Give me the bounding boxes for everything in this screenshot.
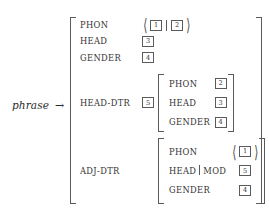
tag-box: 3 <box>142 36 154 47</box>
adj-dtr-row-phon: PHON ⟨ 1 ⟩ <box>164 142 259 161</box>
value: 3 <box>213 97 228 108</box>
angle-list: ⟨ 1 ⟩ <box>231 146 259 157</box>
outer-phon-value: ⟨ 1 2 ⟩ <box>142 20 191 31</box>
outer-row-phon: PHON ⟨ 1 2 ⟩ <box>80 17 256 33</box>
adj-dtr-matrix-body: PHON ⟨ 1 ⟩ HEADMOD <box>164 138 259 204</box>
attribute-label: ADJ-DTR <box>80 166 142 176</box>
angle-list: ⟨ 1 2 ⟩ <box>142 20 191 31</box>
outer-matrix: PHON ⟨ 1 2 ⟩ HEAD 3 <box>70 17 258 204</box>
outer-row-head: HEAD 3 <box>80 33 256 49</box>
head-dtr-row-gender: GENDER 4 <box>164 113 228 132</box>
value: 4 <box>213 117 228 128</box>
outer-matrix-body: PHON ⟨ 1 2 ⟩ HEAD 3 <box>76 17 256 204</box>
adj-dtr-bracket-right <box>259 138 265 204</box>
attribute-label: GENDER <box>169 117 213 127</box>
type-label: phrase → <box>12 99 64 111</box>
attribute-label: PHON <box>169 147 231 157</box>
value: 5 <box>231 165 259 176</box>
list-separator-icon <box>166 20 167 31</box>
path-segment-mod: MOD <box>203 166 226 176</box>
head-dtr-row-head: HEAD 3 <box>164 93 228 112</box>
value: ⟨ 1 ⟩ <box>231 146 259 157</box>
head-dtr-row-phon: PHON 2 <box>164 74 228 93</box>
attribute-label: HEAD-DTR <box>80 98 142 108</box>
tag-box: 4 <box>142 52 154 63</box>
path-separator-icon <box>199 165 200 175</box>
outer-row-gender: GENDER 4 <box>80 50 256 66</box>
tag-box: 5 <box>142 97 154 108</box>
tag-box: 2 <box>171 20 183 31</box>
attribute-path-label: HEADMOD <box>169 165 231 176</box>
attribute-label: HEAD <box>169 98 213 108</box>
attribute-label: HEAD <box>80 36 142 46</box>
path-segment-head: HEAD <box>169 166 196 176</box>
attribute-label: PHON <box>169 79 213 89</box>
tag-box: 1 <box>150 20 162 31</box>
avm-figure: phrase → PHON ⟨ 1 2 ⟩ <box>0 0 269 217</box>
value: 2 <box>213 78 228 89</box>
attribute-label: PHON <box>80 20 142 30</box>
head-dtr-bracket-right <box>228 74 234 132</box>
outer-gender-value: 4 <box>142 52 154 63</box>
tag-box: 2 <box>215 78 227 89</box>
tag-box: 4 <box>215 117 227 128</box>
outer-row-adj-dtr: ADJ-DTR PHON ⟨ 1 ⟩ <box>80 138 256 204</box>
adj-dtr-row-head-mod: HEADMOD 5 <box>164 161 259 180</box>
outer-row-head-dtr: HEAD-DTR 5 PHON 2 HEAD <box>80 74 256 132</box>
head-dtr-matrix: PHON 2 HEAD 3 GENDER <box>158 74 234 132</box>
type-name: phrase <box>12 99 49 111</box>
adj-dtr-row-gender: GENDER 4 <box>164 181 259 200</box>
tag-box: 1 <box>239 146 251 157</box>
head-dtr-tag-slot: 5 <box>142 97 158 108</box>
value: 4 <box>231 185 259 196</box>
adj-dtr-matrix: PHON ⟨ 1 ⟩ HEADMOD <box>158 138 256 204</box>
head-dtr-matrix-body: PHON 2 HEAD 3 GENDER <box>164 74 228 132</box>
tag-box: 5 <box>239 165 251 176</box>
tag-box: 3 <box>215 97 227 108</box>
attribute-label: GENDER <box>80 53 142 63</box>
tag-box: 4 <box>239 185 251 196</box>
outer-head-value: 3 <box>142 36 154 47</box>
implication-arrow-icon: → <box>55 100 64 111</box>
attribute-label: GENDER <box>169 185 231 195</box>
